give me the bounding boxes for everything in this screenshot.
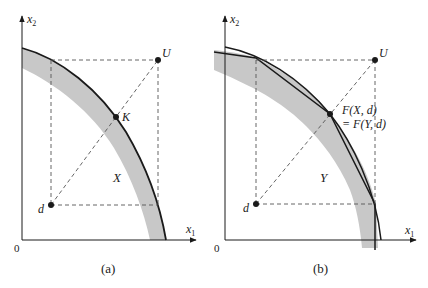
label-U-b: U <box>379 46 389 60</box>
axis-x-label-b: x1 <box>404 223 414 239</box>
caption-a: (a) <box>101 261 115 276</box>
point-F <box>327 111 333 117</box>
label-F-line1: F(X, d) <box>341 103 377 117</box>
axis-y-label-a: x2 <box>26 12 36 28</box>
origin-label-a: 0 <box>14 242 20 254</box>
figure: x2 x1 0 U K d X (a) x2 x1 0 <box>0 0 428 288</box>
caption-b: (b) <box>313 261 328 276</box>
point-U-a <box>155 57 161 63</box>
point-U-b <box>372 57 378 63</box>
axis-y-label-b: x2 <box>229 12 239 28</box>
label-d-b: d <box>243 201 250 215</box>
shaded-band-b <box>214 50 378 248</box>
point-K <box>113 114 119 120</box>
point-d-a <box>48 202 54 208</box>
label-d-a: d <box>38 202 45 216</box>
panel-a: x2 x1 0 U K d X (a) <box>14 12 196 276</box>
origin-label-b: 0 <box>214 242 220 254</box>
region-label-X: X <box>112 170 122 185</box>
label-F-line2: = F(Y, d) <box>342 117 386 131</box>
point-d-b <box>253 201 259 207</box>
label-K: K <box>121 110 131 124</box>
panel-b: x2 x1 0 U F(X, d) = F(Y, d) d Y (b) <box>214 12 416 276</box>
axis-x-label-a: x1 <box>185 222 195 238</box>
region-label-Y: Y <box>320 170 329 185</box>
label-U-a: U <box>162 46 172 60</box>
